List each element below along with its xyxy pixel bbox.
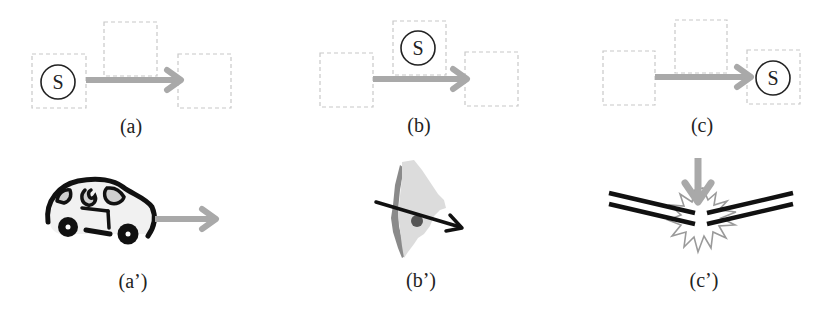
entity-s-label: S [767, 67, 778, 89]
entity-s-circle: S [401, 31, 435, 65]
panel-label-c: (c) [691, 115, 713, 135]
car-icon [48, 179, 155, 244]
region-box-right [178, 54, 231, 108]
motion-arrow [655, 67, 751, 87]
region-box-left [320, 53, 373, 107]
panel-c: S [603, 20, 800, 105]
motion-arrow [155, 209, 216, 229]
region-box-right [465, 52, 518, 106]
panel-b: S [320, 21, 518, 107]
region-box-left [603, 51, 655, 105]
entity-s-circle: S [41, 65, 75, 99]
panel-label-b: (b) [407, 115, 430, 135]
motion-arrow [86, 70, 181, 90]
entity-s-label: S [52, 71, 63, 93]
breaking-stick-icon [609, 158, 793, 252]
panel-label-b-prime: (b’) [406, 270, 436, 290]
region-box-middle [675, 20, 727, 73]
region-box-middle [104, 22, 157, 76]
panel-label-c-prime: (c’) [690, 270, 719, 290]
entity-s-label: S [412, 37, 423, 59]
panel-a: S [32, 22, 231, 108]
panel-label-a: (a) [120, 116, 142, 136]
motion-arrow [373, 69, 467, 89]
figure: S S [0, 0, 828, 316]
force-arrow [685, 158, 711, 202]
panel-label-a-prime: (a’) [119, 271, 148, 291]
entity-s-circle: S [756, 61, 790, 95]
